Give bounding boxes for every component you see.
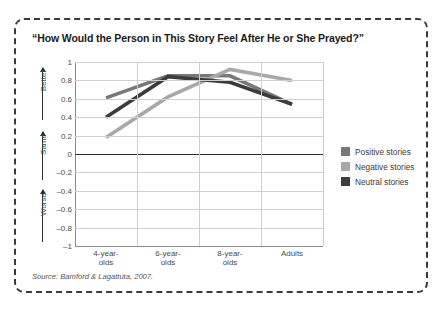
y-tick-label: 1 — [46, 58, 72, 67]
legend-swatch-icon — [341, 162, 350, 171]
chart-title: “How Would the Person in This Story Feel… — [32, 32, 414, 44]
x-axis-line — [75, 246, 323, 247]
legend-item-label: Neutral stories — [355, 177, 409, 187]
x-tick-label: 8-year-olds — [195, 250, 265, 268]
y-tick-label: –0.2 — [46, 168, 72, 177]
x-tick-label: 4-year-olds — [71, 250, 141, 268]
x-tick-label: Adults — [257, 250, 327, 259]
legend-swatch-icon — [341, 177, 350, 186]
figure-container: “How Would the Person in This Story Feel… — [14, 18, 428, 293]
y-tick-label: –0.8 — [46, 223, 72, 232]
legend-item-label: Negative stories — [355, 162, 415, 172]
y-tick-label: 0.4 — [46, 113, 72, 122]
y-tick-label: –0.4 — [46, 186, 72, 195]
y-tick-label: –1 — [46, 242, 72, 251]
source-label: Source: — [32, 272, 58, 281]
source-note: Source: Bamford & Lagattuta, 2007. — [32, 272, 153, 281]
y-tick-label: 0.6 — [46, 94, 72, 103]
gridline-vertical — [137, 62, 138, 246]
legend-item-label: Positive stories — [355, 147, 411, 157]
y-tick-label: 0.8 — [46, 76, 72, 85]
y-tick-label: 0.2 — [46, 131, 72, 140]
y-tick-label: 0 — [46, 150, 72, 159]
x-tick-label: 6-year-olds — [133, 250, 203, 268]
gridline-vertical — [199, 62, 200, 246]
legend-swatch-icon — [341, 147, 350, 156]
legend-item[interactable]: Neutral stories — [341, 174, 436, 189]
y-axis-tick-labels: 10.80.60.40.20–0.2–0.4–0.6–0.8–1 — [42, 62, 72, 246]
y-tick-label: –0.6 — [46, 205, 72, 214]
source-text: Bamford & Lagattuta, 2007. — [58, 272, 153, 281]
legend-item[interactable]: Negative stories — [341, 159, 436, 174]
plot-area — [75, 62, 323, 246]
gridline-vertical — [261, 62, 262, 246]
gridline-vertical — [323, 62, 324, 246]
chart-legend: Positive storiesNegative storiesNeutral … — [341, 144, 436, 189]
legend-item[interactable]: Positive stories — [341, 144, 436, 159]
